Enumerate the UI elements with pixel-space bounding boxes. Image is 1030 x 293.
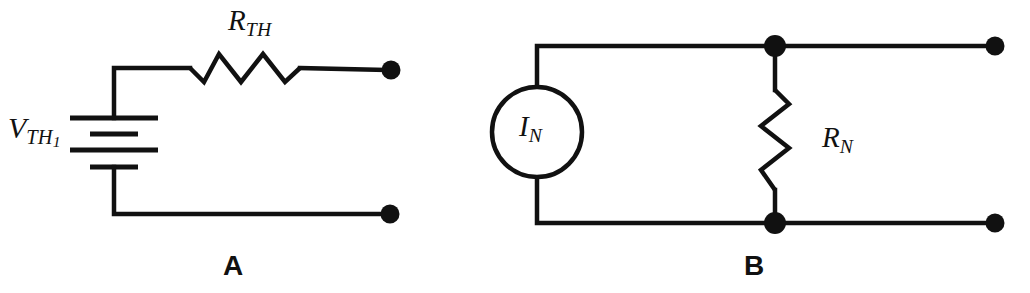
resistor-rn-label-sub: N — [840, 135, 853, 157]
resistor-rth-label-main: R — [228, 4, 246, 36]
voltage-source-label-main: V — [8, 111, 26, 144]
voltage-source-label-sub: TH — [26, 126, 52, 148]
wire-a-bottom — [114, 167, 384, 214]
junction-dot-b-bottom — [764, 212, 786, 234]
resistor-rn-label: RN — [822, 123, 853, 156]
terminal-dot-a-bottom — [381, 205, 400, 224]
terminal-dot-b-bottom — [986, 214, 1005, 233]
panel-b-group — [492, 35, 1005, 234]
resistor-rth-zigzag — [190, 54, 300, 82]
voltage-source-label-subsub: 1 — [53, 133, 61, 150]
current-source-label-main: I — [519, 110, 529, 142]
resistor-rn-zigzag — [761, 90, 789, 190]
wire-a-top-right — [300, 68, 385, 70]
panel-a-group — [70, 54, 401, 224]
panel-caption-a: A — [223, 252, 243, 280]
wire-b-top — [537, 46, 988, 88]
current-source-label: IN — [519, 112, 542, 145]
terminal-dot-a-top — [382, 61, 401, 80]
resistor-rth-label: RTH — [228, 6, 271, 39]
panel-caption-b: B — [744, 252, 764, 280]
voltage-source-label: VTH1 — [8, 113, 61, 149]
resistor-rth-label-sub: TH — [246, 18, 272, 40]
resistor-rn-label-main: R — [822, 121, 840, 153]
junction-dot-b-top — [764, 35, 786, 57]
wire-b-bottom — [537, 177, 988, 223]
current-source-label-sub: N — [529, 124, 542, 146]
circuit-diagram-svg — [0, 0, 1030, 293]
figure-canvas: VTH1 RTH IN RN A B — [0, 0, 1030, 293]
terminal-dot-b-top — [986, 37, 1005, 56]
wire-a-top-left — [114, 68, 190, 118]
